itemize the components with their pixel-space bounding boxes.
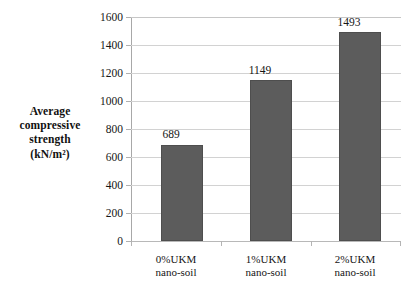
y-tick-label-1000: 1000	[75, 96, 123, 108]
bar-0pct-ukm-nano-soil[interactable]	[161, 145, 203, 242]
x-category-label-0pct: 0%UKM nano-soil	[136, 253, 216, 279]
x-category-label-1pct-line-2: nano-soil	[226, 266, 306, 279]
x-category-label-2pct-line-1: 2%UKM	[315, 253, 395, 266]
gridline-baseline-0	[131, 241, 401, 242]
x-tick-mark-2	[311, 241, 312, 246]
bar-chart: Average compressive strength (kN/m²) 160…	[0, 0, 417, 295]
x-category-label-2pct: 2%UKM nano-soil	[315, 253, 395, 279]
bar-2pct-ukm-nano-soil[interactable]	[339, 32, 381, 241]
bar-value-label-1pct: 1149	[230, 65, 290, 77]
x-tick-mark-right	[400, 241, 401, 246]
x-category-label-0pct-line-1: 0%UKM	[136, 253, 216, 266]
x-category-label-1pct: 1%UKM nano-soil	[226, 253, 306, 279]
y-tick-label-0: 0	[75, 236, 123, 248]
bar-value-label-0pct: 689	[141, 129, 201, 141]
x-tick-mark-1	[221, 241, 222, 246]
y-tick-label-800: 800	[75, 124, 123, 136]
bar-1pct-ukm-nano-soil[interactable]	[250, 80, 292, 241]
y-tick-label-400: 400	[75, 180, 123, 192]
y-tick-label-1600: 1600	[75, 12, 123, 24]
x-tick-mark-left	[131, 241, 132, 246]
x-category-label-1pct-line-1: 1%UKM	[226, 253, 306, 266]
y-tick-label-1200: 1200	[75, 68, 123, 80]
y-tick-label-1400: 1400	[75, 40, 123, 52]
x-category-label-0pct-line-2: nano-soil	[136, 266, 216, 279]
y-tick-label-600: 600	[75, 152, 123, 164]
x-category-label-2pct-line-2: nano-soil	[315, 266, 395, 279]
bar-value-label-2pct: 1493	[319, 17, 379, 29]
y-tick-label-200: 200	[75, 208, 123, 220]
